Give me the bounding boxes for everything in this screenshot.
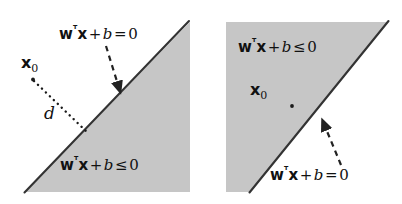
right-hyperplane-label: wᵀx+b=0 [270, 168, 349, 183]
b-symbol: b [282, 38, 292, 56]
figure-canvas: wᵀx+b=0 wᵀx+b≤0 x0 d [0, 0, 402, 204]
zero-value: 0 [339, 166, 349, 184]
leq-operator: ≤ [114, 156, 130, 174]
equals-operator: = [113, 25, 129, 43]
bold-w-symbol: w [59, 25, 73, 43]
bold-x-symbol: x [78, 156, 88, 174]
leq-operator: ≤ [292, 38, 308, 56]
left-halfspace-label: wᵀx+b≤0 [60, 158, 139, 173]
b-symbol: b [104, 156, 114, 174]
bold-x-symbol: x [288, 166, 298, 184]
bold-x-symbol: x [250, 80, 260, 99]
left-point-x0-label: x0 [21, 55, 38, 71]
subscript-zero: 0 [31, 62, 38, 75]
hyperplane-annotation-arrow [324, 124, 341, 165]
right-point-x0-label: x0 [250, 82, 267, 98]
zero-value: 0 [129, 156, 139, 174]
bold-w-symbol: w [60, 156, 74, 174]
bold-w-symbol: w [238, 38, 252, 56]
left-panel: wᵀx+b=0 wᵀx+b≤0 x0 d [0, 0, 201, 204]
plus-operator: + [87, 25, 103, 43]
bold-w-symbol: w [270, 166, 284, 184]
zero-value: 0 [307, 38, 317, 56]
right-panel: wᵀx+b≤0 wᵀx+b=0 x0 [201, 0, 402, 204]
bold-x-symbol: x [256, 38, 266, 56]
zero-value: 0 [128, 25, 138, 43]
b-symbol: b [103, 25, 113, 43]
left-distance-label: d [44, 105, 55, 122]
distance-dotted-segment [34, 81, 88, 133]
hyperplane-annotation-arrow [106, 46, 119, 88]
plus-operator: + [298, 166, 314, 184]
left-hyperplane-label: wᵀx+b=0 [59, 27, 138, 42]
plus-operator: + [266, 38, 282, 56]
b-symbol: b [314, 166, 324, 184]
equals-operator: = [324, 166, 340, 184]
bold-x-symbol: x [21, 53, 31, 72]
bold-x-symbol: x [77, 25, 87, 43]
point-x0-marker [290, 104, 294, 108]
point-x0-marker [31, 78, 35, 82]
plus-operator: + [88, 156, 104, 174]
right-halfspace-label: wᵀx+b≤0 [238, 40, 317, 55]
subscript-zero: 0 [260, 89, 267, 102]
